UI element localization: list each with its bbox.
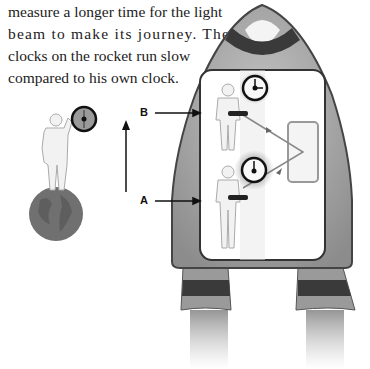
motion-arrow-icon [122,120,130,192]
relativity-diagram [0,0,370,369]
earth-globe [29,187,83,241]
exhaust-flames [190,310,344,369]
clock-a-icon [234,150,274,190]
observer-clock-icon [72,107,96,131]
label-b: B [140,106,148,118]
clock-b-icon [239,72,271,104]
rocket-engines [181,268,355,310]
earth-observer [42,114,72,190]
rocket [172,5,352,268]
flashlight-b [228,111,248,116]
label-a: A [140,194,148,206]
flashlight-a [228,195,248,200]
